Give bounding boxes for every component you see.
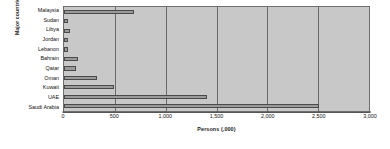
bar-row [64,54,369,63]
bar-row [64,83,369,92]
y-axis-tick-label: Oman [0,73,62,83]
bar [64,10,134,14]
x-axis-ticks: 05001,0001,5002,0002,5003,000 [63,113,370,123]
bar-row [64,73,369,82]
x-axis-tick-label: 2,000 [261,113,275,119]
bar [64,66,76,70]
y-axis-tick-label: Jordan [0,35,62,45]
bar-row [64,26,369,35]
bar-row [64,92,369,101]
bar-row [64,16,369,25]
y-axis-tick-label: Lebanon [0,45,62,55]
y-axis-tick-label: Bahrain [0,54,62,64]
x-axis-tick-label: 500 [110,113,119,119]
bar [64,104,319,108]
bar [64,85,114,89]
x-axis-tick-label: 0 [62,113,65,119]
plot-inner [64,7,369,111]
y-axis-tick-label: UAE [0,93,62,103]
bar-row [64,45,369,54]
y-axis-tick-label: Sudan [0,16,62,26]
x-axis-tick-label: 1,500 [210,113,224,119]
x-axis-tick-label: 2,500 [312,113,326,119]
bar [64,47,68,51]
y-axis-tick-label: Malaysia [0,6,62,16]
bar-row [64,7,369,16]
y-axis-tick-label: Qatar [0,64,62,74]
plot-area [63,6,370,112]
bar-row [64,102,369,111]
bar [64,76,97,80]
y-axis-tick-label: Libya [0,25,62,35]
y-axis-category-labels: MalaysiaSudanLibyaJordanLebanonBahrainQa… [0,6,62,112]
bar-chart-figure: Major countries MalaysiaSudanLibyaJordan… [0,0,390,149]
y-axis-tick-label: Kuwait [0,83,62,93]
y-axis-tick-label: Saudi Arabia [0,102,62,112]
bar [64,19,68,23]
x-axis-tick-label: 3,000 [363,113,377,119]
bar [64,57,78,61]
bar [64,29,70,33]
bar [64,95,207,99]
x-axis-title: Persons (,000) [63,126,370,132]
bar-series [64,7,369,111]
bar [64,38,68,42]
bar-row [64,64,369,73]
x-axis-tick-label: 1,000 [159,113,173,119]
bar-row [64,35,369,44]
